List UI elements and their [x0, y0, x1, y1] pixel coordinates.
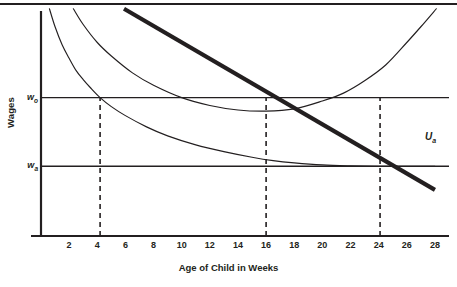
series-steep-decay-curve: [49, 9, 434, 167]
x-tick-label-16: 16: [255, 240, 277, 250]
x-tick-label-12: 12: [199, 240, 221, 250]
x-tick-label-8: 8: [143, 240, 165, 250]
x-tick-label-26: 26: [396, 240, 418, 250]
x-tick-label-18: 18: [283, 240, 305, 250]
y-tick-label-w-o: wo: [14, 92, 38, 104]
series-u-shaped-curve: [73, 9, 436, 111]
y-tick-label-w-a: wa: [14, 160, 38, 172]
x-tick-label-22: 22: [340, 240, 362, 250]
x-axis-title: Age of Child in Weeks: [0, 262, 457, 273]
series-thick-budget-line: [124, 9, 435, 190]
x-tick-label-6: 6: [114, 240, 136, 250]
x-tick-label-4: 4: [86, 240, 108, 250]
x-tick-label-20: 20: [311, 240, 333, 250]
figure-container: Wages Age of Child in Weeks 246810121416…: [0, 0, 457, 287]
axes-group: [31, 11, 449, 236]
curves-group: [49, 9, 436, 190]
x-tick-label-10: 10: [171, 240, 193, 250]
x-tick-label-14: 14: [227, 240, 249, 250]
x-tick-label-2: 2: [58, 240, 80, 250]
x-tick-label-24: 24: [368, 240, 390, 250]
u-a-curve-label: Ua: [425, 131, 436, 144]
x-tick-label-28: 28: [424, 240, 446, 250]
